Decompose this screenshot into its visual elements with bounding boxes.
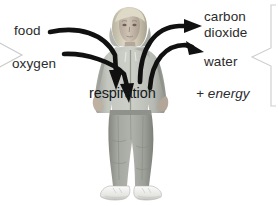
center-label-respiration: respiration [89,86,156,101]
bracket-right [246,0,278,206]
standing-person-photo-icon [82,0,198,206]
respiration-diagram: food oxygen carbon dioxide water + energ… [0,0,278,206]
bracket-pointer-left-icon [252,5,276,106]
output-label-water: water [204,55,238,68]
output-label-dioxide: dioxide [204,26,247,39]
bracket-pointer-right-icon [0,40,22,70]
bracket-left [0,0,26,206]
subject-figure [82,0,198,206]
output-label-carbon: carbon [204,10,246,23]
output-label-energy: + energy [196,87,250,100]
